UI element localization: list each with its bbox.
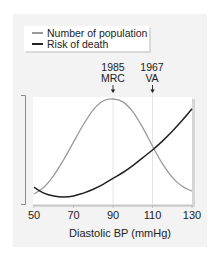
down-arrow-icon-va — [150, 85, 154, 93]
x-tick-110: 110 — [138, 209, 168, 221]
x-tick-70: 70 — [59, 209, 89, 221]
x-tick-90: 90 — [98, 209, 128, 221]
x-axis-label: Diastolic BP (mmHg) — [60, 227, 180, 239]
y-axis-bracket — [21, 96, 26, 205]
down-arrow-icon-mrc — [111, 85, 115, 93]
plot-area — [33, 97, 192, 205]
x-tick-130: 130 — [177, 209, 207, 221]
x-tick-50: 50 — [19, 209, 49, 221]
plot-shadow-right — [192, 99, 195, 207]
